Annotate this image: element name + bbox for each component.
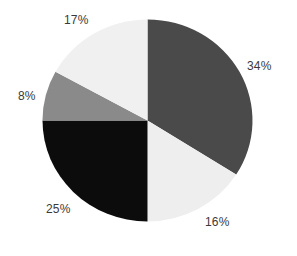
slice-label-17: 17% bbox=[64, 14, 89, 26]
slice-label-34: 34% bbox=[247, 60, 272, 72]
slice-label-25: 25% bbox=[46, 203, 71, 215]
pie-chart: 34% 16% 25% 8% 17% bbox=[0, 0, 297, 256]
slice-label-16: 16% bbox=[205, 216, 230, 228]
pie-chart-graphic bbox=[0, 0, 297, 256]
slice-label-8: 8% bbox=[18, 90, 36, 102]
